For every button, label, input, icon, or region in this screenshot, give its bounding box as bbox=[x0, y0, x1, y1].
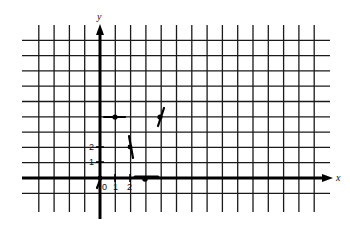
y-axis-arrow-icon bbox=[96, 24, 104, 35]
x-tick-2-label: 2 bbox=[127, 182, 132, 192]
x-axis bbox=[22, 174, 333, 182]
point-4-4 bbox=[157, 114, 162, 119]
y-tick-2-label: 2 bbox=[89, 142, 94, 152]
x-axis-arrow-icon bbox=[322, 174, 333, 182]
y-tick-1-label: 1 bbox=[89, 157, 94, 167]
point-2-2 bbox=[128, 145, 133, 150]
coordinate-plane: x y 0 1 2 1 2 bbox=[0, 0, 350, 229]
point-origin bbox=[98, 176, 103, 181]
x-tick-1-label: 1 bbox=[113, 182, 118, 192]
x-axis-label: x bbox=[335, 172, 341, 183]
point-3-0 bbox=[142, 176, 148, 182]
y-axis-label: y bbox=[96, 11, 102, 22]
point-1-4 bbox=[112, 114, 117, 119]
vertical-grid-lines bbox=[39, 25, 314, 212]
grid bbox=[22, 25, 330, 212]
origin-label: 0 bbox=[102, 182, 107, 192]
